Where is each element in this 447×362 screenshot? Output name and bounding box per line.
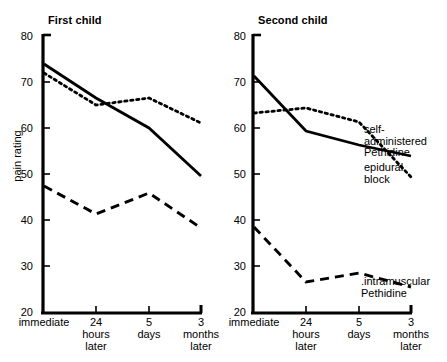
legend-intra-line1: .intramuscular (361, 276, 430, 288)
legend-epidural-line2: block (364, 174, 403, 186)
chart-panel-second-child: Second child 80 70 60 50 40 30 20 immedi… (220, 0, 447, 362)
plot-area-second (220, 0, 447, 362)
x-tick-3months-second-line3: later (373, 341, 447, 353)
legend-self-line3: Pethidine (364, 147, 427, 159)
legend-label-intramuscular-pethidine: .intramuscular Pethidine (361, 276, 430, 299)
x-tick-24h-second-line3: later (268, 341, 344, 353)
legend-label-epidural-block: epidural block (364, 162, 403, 185)
x-tick-24h-first-line3: later (58, 341, 134, 353)
legend-label-self-administered-pethidine: self- administered Pethidine (364, 124, 427, 159)
x-tick-3months-second-line1: 3 (373, 317, 447, 329)
legend-epidural-line1: epidural (364, 162, 403, 174)
plot-area-first (0, 0, 224, 362)
x-tick-3months-second-line2: months (373, 329, 447, 341)
series-intramuscular-pethidine-first (44, 186, 201, 228)
pain-rating-figure: First child pain rating 80 70 60 50 40 3… (0, 0, 447, 362)
chart-panel-first-child: First child pain rating 80 70 60 50 40 3… (0, 0, 224, 362)
series-self-administered-pethidine-first (44, 64, 201, 176)
legend-self-line1: self- (364, 124, 427, 136)
legend-intra-line2: Pethidine (361, 288, 430, 300)
